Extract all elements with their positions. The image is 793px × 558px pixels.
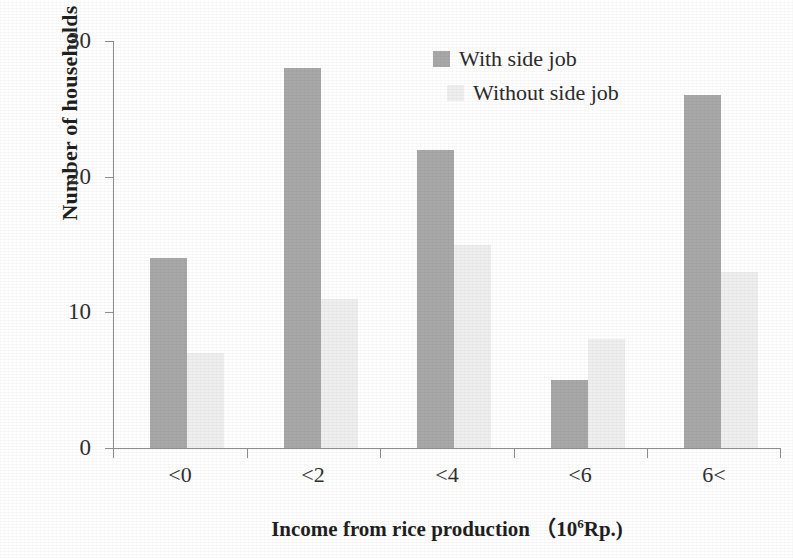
bar-without-side-job-0	[187, 353, 224, 448]
x-axis-title: Income from rice production （106Rp.)	[113, 512, 781, 542]
bar-with-side-job-3	[551, 380, 588, 448]
x-axis-line	[113, 448, 781, 449]
legend-swatch-icon-without-side-job	[447, 85, 464, 101]
bar-with-side-job-2	[417, 150, 454, 448]
y-axis-label-30: 30	[31, 29, 91, 52]
x-axis-label-lt6: <6	[520, 462, 640, 488]
bar-with-side-job-4	[684, 95, 721, 448]
x-axis-tick-2	[380, 448, 381, 458]
y-axis-label-20: 20	[31, 165, 91, 188]
bar-without-side-job-4	[721, 272, 758, 448]
x-axis-tick-1	[247, 448, 248, 458]
legend-swatch-icon-with-side-job	[433, 51, 450, 67]
legend: With side job Without side job	[433, 42, 733, 110]
legend-label-with-side-job: With side job	[459, 46, 577, 72]
x-axis-label-gt6: 6<	[654, 462, 774, 488]
x-axis-title-suffix: Rp.)	[584, 517, 623, 541]
bar-chart: Number of households 30 20 10 0 <0 <2 <4…	[0, 0, 793, 558]
legend-item-with-side-job: With side job	[433, 42, 733, 76]
bar-without-side-job-1	[321, 299, 358, 448]
x-axis-title-prefix: Income from rice production （10	[271, 517, 577, 541]
bar-without-side-job-2	[454, 245, 491, 449]
x-axis-tick-5	[780, 448, 781, 458]
legend-label-without-side-job: Without side job	[473, 80, 619, 106]
bar-without-side-job-3	[588, 339, 625, 448]
legend-item-without-side-job: Without side job	[433, 76, 733, 110]
bar-with-side-job-1	[284, 68, 321, 448]
x-axis-tick-3	[514, 448, 515, 458]
x-axis-tick-0	[113, 448, 114, 458]
x-axis-label-lt0: <0	[120, 462, 240, 488]
y-axis-label-10: 10	[31, 300, 91, 323]
x-axis-label-lt2: <2	[253, 462, 373, 488]
x-axis-tick-4	[647, 448, 648, 458]
x-axis-label-lt4: <4	[387, 462, 507, 488]
bar-with-side-job-0	[150, 258, 187, 448]
y-axis-label-0: 0	[31, 436, 91, 459]
